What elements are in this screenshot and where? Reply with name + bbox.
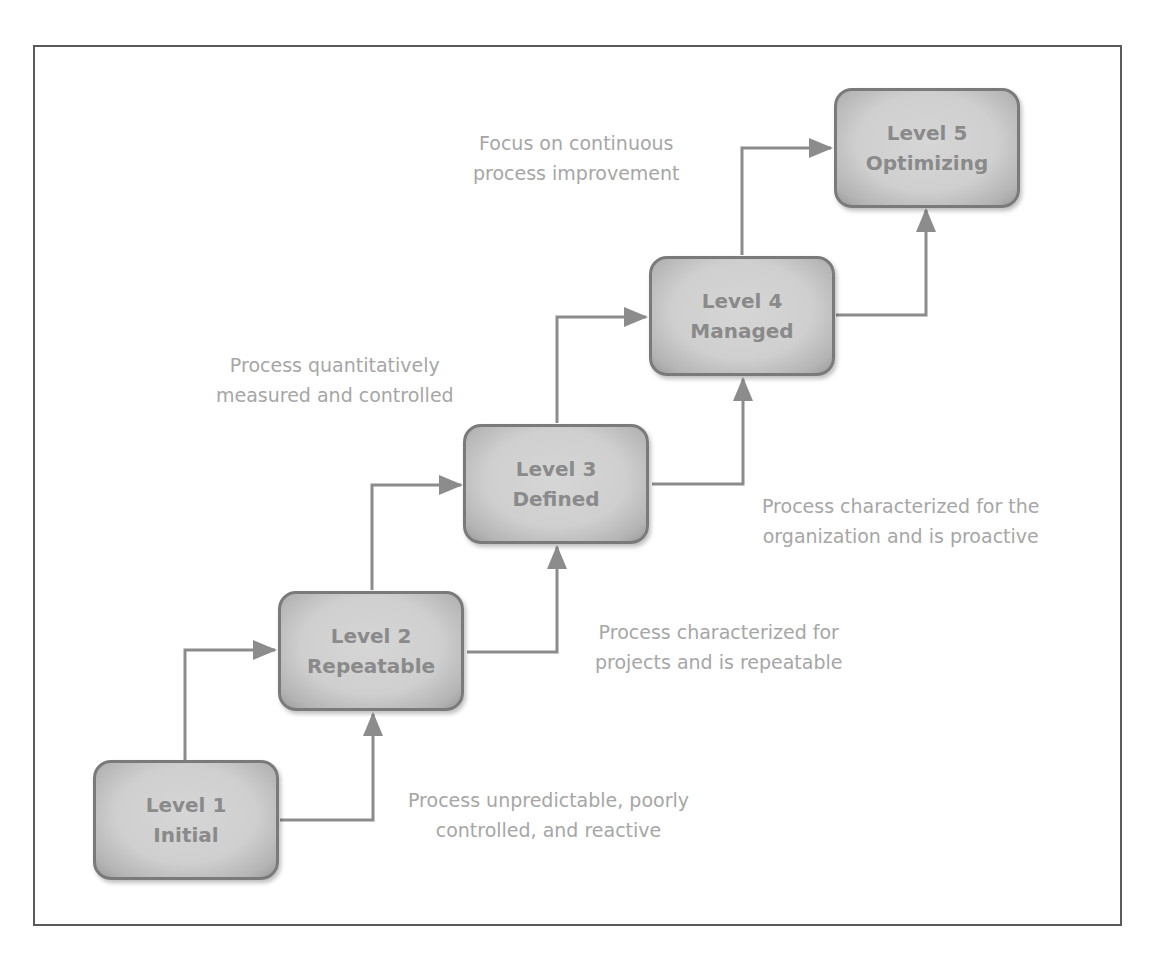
level-1-number: Level 1 [146, 790, 227, 820]
level-5-description: Focus on continuous process improvement [473, 128, 680, 188]
level-1-description: Process unpredictable, poorly controlled… [408, 785, 689, 845]
level-5-number: Level 5 [887, 118, 968, 148]
level-4-name: Managed [690, 316, 793, 346]
level-2-name: Repeatable [307, 651, 435, 681]
arrow-l1-to-l2-left [185, 650, 275, 760]
level-1-box: Level 1 Initial [93, 760, 279, 880]
level-3-box: Level 3 Defined [463, 424, 649, 544]
arrow-l4-to-l5-bottom [836, 210, 926, 315]
level-4-number: Level 4 [702, 286, 783, 316]
level-4-description: Process quantitatively measured and cont… [216, 350, 454, 410]
level-2-number: Level 2 [331, 621, 412, 651]
level-3-description: Process characterized for the organizati… [762, 491, 1040, 551]
level-2-box: Level 2 Repeatable [278, 591, 464, 711]
level-4-box: Level 4 Managed [649, 256, 835, 376]
level-2-description: Process characterized for projects and i… [595, 617, 842, 677]
arrow-l1-to-l2-bottom [280, 714, 373, 820]
arrow-l2-to-l3-bottom [467, 547, 557, 652]
level-1-name: Initial [153, 820, 218, 850]
level-3-number: Level 3 [516, 454, 597, 484]
arrow-l3-to-l4-bottom [652, 379, 743, 484]
level-5-name: Optimizing [866, 148, 988, 178]
level-3-name: Defined [512, 484, 599, 514]
arrow-l2-to-l3-left [372, 485, 461, 590]
arrow-l3-to-l4-left [557, 317, 646, 423]
arrow-l4-to-l5-left [742, 148, 831, 255]
level-5-box: Level 5 Optimizing [834, 88, 1020, 208]
